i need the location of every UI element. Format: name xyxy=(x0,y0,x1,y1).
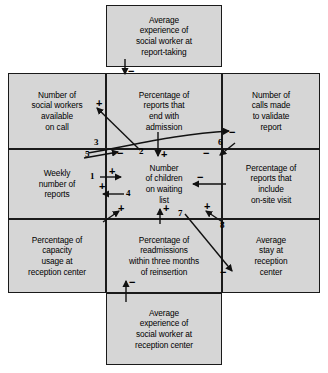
sign-social-workers-plus: + xyxy=(96,98,102,109)
diagram-canvas: Average experience of social worker at r… xyxy=(0,0,328,373)
arrow-number-4: 4 xyxy=(126,189,131,198)
sign-readmissions-plus: + xyxy=(163,203,169,214)
arrow-layer xyxy=(0,0,328,373)
arrow-number-3: 3 xyxy=(94,138,99,147)
sign-admission-down-plus: + xyxy=(161,149,167,160)
arrow-number-2: 2 xyxy=(139,147,144,156)
sign-top-minus: − xyxy=(128,66,134,77)
sign-six-arrow-minus: − xyxy=(203,148,209,159)
sign-onsite-minus: − xyxy=(197,172,203,183)
sign-four-plus: + xyxy=(99,181,105,192)
sign-bottom-minus: − xyxy=(129,277,135,288)
arrow-number-8: 8 xyxy=(220,221,225,230)
sign-one-plus: + xyxy=(109,166,115,177)
sign-eight-plus: + xyxy=(204,201,210,212)
sign-three-minus: − xyxy=(117,148,123,159)
sign-six-curve-minus: − xyxy=(229,127,235,138)
arrow-capacity-to-waitinglist xyxy=(103,211,119,222)
arrow-number-6: 6 xyxy=(218,138,223,147)
sign-seven-minus: − xyxy=(220,267,226,278)
arrow-number-7: 7 xyxy=(178,209,183,218)
arrow-number-5: 5 xyxy=(85,150,90,159)
arrow-number-1: 1 xyxy=(90,172,95,181)
sign-capacity-plus: + xyxy=(118,203,124,214)
